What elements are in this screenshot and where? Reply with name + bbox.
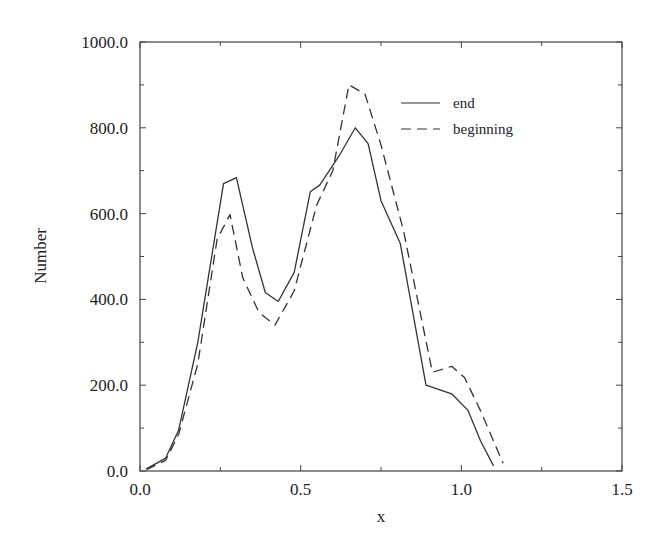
y-tick-label: 0.0 [107,462,128,481]
legend: end beginning [401,95,513,137]
x-tick-label: 1.0 [451,480,472,499]
series-layer [146,85,503,470]
x-tick-label: 0.0 [129,480,150,499]
y-tick-label: 200.0 [90,376,128,395]
line-chart: 0.00.51.01.50.0200.0400.0600.0800.01000.… [0,0,666,552]
legend-label-beginning: beginning [453,121,513,137]
y-tick-label: 1000.0 [81,33,128,52]
series-beginning [146,85,503,470]
y-tick-label: 600.0 [90,205,128,224]
series-end [146,128,493,469]
y-tick-label: 400.0 [90,290,128,309]
legend-label-end: end [453,95,475,111]
y-tick-label: 800.0 [90,119,128,138]
x-axis-label: x [377,507,386,526]
x-tick-label: 0.5 [290,480,311,499]
tick-labels: 0.00.51.01.50.0200.0400.0600.0800.01000.… [81,33,632,499]
y-axis-label: Number [31,228,50,284]
x-tick-label: 1.5 [611,480,632,499]
